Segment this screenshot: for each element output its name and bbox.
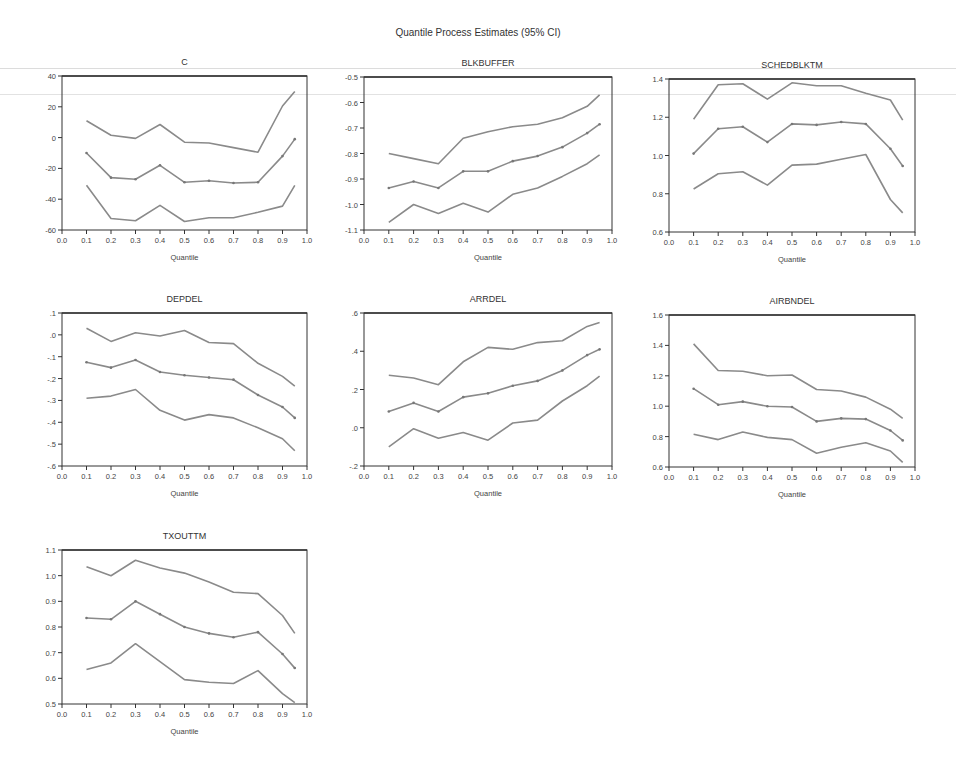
data-point-marker: [512, 384, 515, 387]
data-point-marker: [388, 187, 391, 190]
y-tick-label: 0.8: [46, 623, 56, 632]
x-tick-label: 0.8: [557, 236, 567, 245]
data-point-marker: [281, 653, 284, 656]
data-point-marker: [183, 374, 186, 377]
data-point-marker: [293, 667, 296, 670]
x-tick-label: 0.7: [532, 472, 542, 481]
y-tick-label: .4: [352, 347, 358, 356]
x-tick-label: 1.0: [302, 710, 312, 719]
data-point-marker: [293, 138, 296, 141]
x-tick-label: 0.0: [359, 472, 369, 481]
x-tick-label: 0.9: [885, 473, 895, 482]
y-tick-label: -.3: [47, 396, 56, 405]
y-tick-label: 20: [48, 103, 56, 112]
chart-panel-depdel: DEPDEL-.6-.5-.4-.3-.2-.1.0.10.00.10.20.3…: [22, 291, 317, 506]
x-tick-label: 0.6: [204, 710, 214, 719]
x-tick-label: 0.2: [106, 472, 116, 481]
data-point-marker: [889, 429, 892, 432]
y-tick-label: -40: [45, 195, 56, 204]
chart-panel-txouttm: TXOUTTM0.50.60.70.80.91.01.10.00.10.20.3…: [22, 528, 317, 744]
x-tick-label: 1.0: [302, 472, 312, 481]
data-point-marker: [717, 403, 720, 406]
data-point-marker: [281, 406, 284, 409]
chart-panel-blkbuffer: BLKBUFFER-1.1-1.0-0.9-0.8-0.7-0.6-0.50.0…: [324, 55, 622, 270]
y-tick-label: 1.2: [653, 372, 663, 381]
data-point-marker: [183, 181, 186, 184]
x-tick-label: 0.6: [508, 236, 518, 245]
figure-title: Quantile Process Estimates (95% CI): [0, 27, 956, 38]
data-point-marker: [437, 187, 440, 190]
plot-area: -1.1-1.0-0.9-0.8-0.7-0.6-0.50.00.10.20.3…: [324, 55, 622, 270]
y-tick-label: -0.6: [345, 99, 358, 108]
data-point-marker: [159, 371, 162, 374]
x-tick-label: 0.7: [532, 236, 542, 245]
x-tick-label: 0.1: [384, 236, 394, 245]
y-tick-label: 0.6: [46, 674, 56, 683]
chart-panel-c: C-60-40-20020400.00.10.20.30.40.50.60.70…: [22, 54, 317, 270]
x-tick-label: 0.7: [228, 236, 238, 245]
data-point-marker: [598, 348, 601, 351]
upper-ci-line: [87, 560, 295, 633]
x-tick-label: 0.9: [277, 472, 287, 481]
x-tick-label: 1.0: [910, 473, 920, 482]
x-tick-label: 1.0: [910, 238, 920, 247]
y-tick-label: -60: [45, 226, 56, 235]
y-tick-label: 0: [52, 134, 56, 143]
x-tick-label: 0.4: [762, 473, 772, 482]
y-tick-label: 0.8: [653, 190, 663, 199]
y-tick-label: 1.4: [653, 341, 663, 350]
data-point-marker: [889, 148, 892, 151]
x-tick-label: 0.2: [106, 710, 116, 719]
data-point-marker: [134, 359, 137, 362]
x-tick-label: 0.1: [688, 238, 698, 247]
upper-ci-line: [694, 344, 903, 419]
x-axis-label: Quantile: [171, 253, 199, 262]
x-tick-label: 0.3: [738, 238, 748, 247]
y-tick-label: -0.5: [345, 73, 358, 82]
x-tick-label: 0.2: [106, 236, 116, 245]
x-tick-label: 0.5: [483, 236, 493, 245]
data-point-marker: [257, 394, 260, 397]
x-tick-label: 0.8: [861, 238, 871, 247]
x-tick-label: 0.0: [664, 473, 674, 482]
x-tick-label: 1.0: [607, 236, 617, 245]
data-point-marker: [692, 387, 695, 390]
x-tick-label: 0.1: [81, 236, 91, 245]
plot-frame: [364, 313, 612, 466]
x-tick-label: 0.6: [811, 473, 821, 482]
data-point-marker: [232, 378, 235, 381]
x-tick-label: 0.4: [155, 710, 165, 719]
data-point-marker: [134, 178, 137, 181]
upper-ci-line: [389, 95, 600, 164]
chart-panel-arrdel: ARRDEL-.2.0.2.4.60.00.10.20.30.40.50.60.…: [324, 291, 622, 506]
x-tick-label: 0.0: [664, 238, 674, 247]
y-tick-label: 1.4: [653, 75, 663, 84]
x-tick-label: 0.9: [582, 472, 592, 481]
data-point-marker: [257, 181, 260, 184]
x-tick-label: 0.6: [204, 236, 214, 245]
lower-ci-line: [87, 390, 295, 451]
data-point-marker: [232, 182, 235, 185]
x-tick-label: 0.3: [433, 236, 443, 245]
x-tick-label: 0.5: [179, 472, 189, 481]
x-tick-label: 0.5: [179, 236, 189, 245]
data-point-marker: [512, 160, 515, 163]
x-tick-label: 0.0: [57, 710, 67, 719]
data-point-marker: [598, 123, 601, 126]
data-point-marker: [791, 406, 794, 409]
data-point-marker: [85, 361, 88, 364]
data-point-marker: [586, 132, 589, 135]
lower-ci-line: [694, 432, 903, 462]
x-tick-label: 0.2: [408, 236, 418, 245]
x-tick-label: 0.8: [861, 473, 871, 482]
x-tick-label: 0.4: [155, 472, 165, 481]
data-point-marker: [412, 180, 415, 183]
y-tick-label: -0.8: [345, 150, 358, 159]
y-tick-label: -1.0: [345, 201, 358, 210]
x-tick-label: 0.2: [713, 238, 723, 247]
y-tick-label: -.5: [47, 440, 56, 449]
x-tick-label: 1.0: [607, 472, 617, 481]
data-point-marker: [561, 369, 564, 372]
data-point-marker: [766, 141, 769, 144]
data-point-marker: [412, 402, 415, 405]
